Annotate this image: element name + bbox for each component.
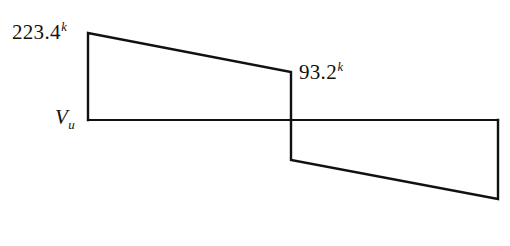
shear-peak-left-label: 223.4k bbox=[12, 22, 67, 43]
shear-peak-mid-label: 93.2k bbox=[299, 62, 343, 83]
positive-shear-outline bbox=[88, 33, 291, 120]
shear-peak-mid-value: 93.2 bbox=[299, 60, 337, 84]
shear-peak-left-value: 223.4 bbox=[12, 20, 61, 44]
axis-symbol: V bbox=[55, 105, 68, 129]
negative-shear-outline bbox=[291, 120, 498, 199]
shear-peak-left-unit: k bbox=[61, 20, 67, 34]
axis-subscript: u bbox=[68, 117, 75, 132]
shear-force-axis-label: Vu bbox=[55, 107, 75, 128]
shear-diagram-svg bbox=[0, 0, 510, 246]
shear-peak-mid-unit: k bbox=[337, 60, 343, 74]
shear-force-diagram-figure: 223.4k 93.2k Vu bbox=[0, 0, 510, 246]
